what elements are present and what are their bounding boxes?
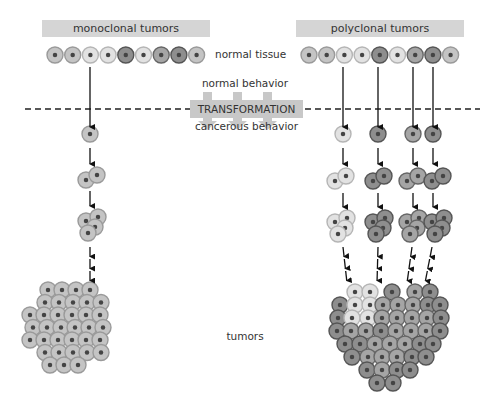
nucleus-icon <box>42 338 46 342</box>
nucleus-icon <box>418 342 422 346</box>
nucleus-icon <box>413 290 417 294</box>
dividing-cell <box>376 168 392 184</box>
nucleus-icon <box>335 329 339 333</box>
nucleus-icon <box>84 338 88 342</box>
nucleus-icon <box>382 174 386 178</box>
normal-tissue-cell <box>171 47 187 63</box>
nucleus-icon <box>395 316 399 320</box>
nucleus-icon <box>395 368 399 372</box>
nucleus-icon <box>71 350 75 354</box>
nucleus-icon <box>341 132 345 136</box>
normal-tissue-cell <box>301 47 317 63</box>
nucleus-icon <box>411 303 415 307</box>
nucleus-icon <box>381 303 385 307</box>
nucleus-icon <box>336 232 340 236</box>
nucleus-icon <box>360 53 364 57</box>
nucleus-icon <box>43 300 47 304</box>
nucleus-icon <box>438 329 442 333</box>
normal-tissue-cell <box>336 47 352 63</box>
dividing-cell <box>338 168 354 184</box>
dividing-cell <box>435 168 451 184</box>
transformed-cell <box>370 126 386 142</box>
dividing-cell <box>89 167 105 183</box>
polyclonal-header: polyclonal tumors <box>296 20 464 37</box>
nucleus-icon <box>413 53 417 57</box>
dividing-cell <box>368 226 384 242</box>
nucleus-icon <box>124 53 128 57</box>
nucleus-icon <box>431 132 435 136</box>
normal-tissue-cell <box>118 47 134 63</box>
nucleus-icon <box>333 179 337 183</box>
nucleus-icon <box>373 342 377 346</box>
nucleus-icon <box>408 368 412 372</box>
nucleus-icon <box>84 178 88 182</box>
tumor-cell <box>369 375 385 391</box>
nucleus-icon <box>408 232 412 236</box>
nucleus-icon <box>430 179 434 183</box>
normal-tissue-cell <box>390 47 406 63</box>
nucleus-icon <box>391 381 395 385</box>
nucleus-icon <box>70 53 74 57</box>
nucleus-icon <box>60 288 64 292</box>
nucleus-icon <box>45 325 49 329</box>
nucleus-icon <box>353 303 357 307</box>
normal-tissue-cell <box>354 47 370 63</box>
nucleus-icon <box>379 329 383 333</box>
tumor-cell <box>385 375 401 391</box>
dashed-arrow-icon <box>409 259 410 269</box>
nucleus-icon <box>431 342 435 346</box>
nucleus-icon <box>378 53 382 57</box>
nucleus-icon <box>85 300 89 304</box>
nucleus-icon <box>428 290 432 294</box>
nucleus-icon <box>388 342 392 346</box>
tumor-cell <box>344 349 360 365</box>
nucleus-icon <box>43 350 47 354</box>
nucleus-icon <box>438 303 442 307</box>
nucleus-icon <box>380 368 384 372</box>
dividing-cell <box>80 225 96 241</box>
nucleus-icon <box>342 53 346 57</box>
normal-behavior-label: normal behavior <box>195 77 295 89</box>
normal-tissue-cell <box>82 47 98 63</box>
transformation-label: TRANSFORMATION <box>190 100 303 118</box>
nucleus-icon <box>86 231 90 235</box>
nucleus-icon <box>87 325 91 329</box>
nucleus-icon <box>353 290 357 294</box>
nucleus-icon <box>371 179 375 183</box>
tumor-clonality-diagram <box>0 0 492 410</box>
nucleus-icon <box>439 316 443 320</box>
diagram-canvas: monoclonal tumors polyclonal tumors norm… <box>0 0 492 410</box>
dividing-cell <box>402 226 418 242</box>
nucleus-icon <box>177 53 181 57</box>
nucleus-icon <box>368 303 372 307</box>
normal-tissue-cell <box>425 47 441 63</box>
monoclonal-header: monoclonal tumors <box>42 20 210 37</box>
nucleus-icon <box>85 350 89 354</box>
nucleus-icon <box>410 316 414 320</box>
tumor-cell <box>402 362 418 378</box>
nucleus-icon <box>424 329 428 333</box>
dashed-arrow-icon <box>428 259 430 269</box>
nucleus-icon <box>59 325 63 329</box>
normal-tissue-cell <box>65 47 81 63</box>
nucleus-icon <box>53 53 57 57</box>
nucleus-icon <box>159 53 163 57</box>
nucleus-icon <box>376 132 380 136</box>
nucleus-icon <box>84 313 88 317</box>
nucleus-icon <box>416 174 420 178</box>
normal-tissue-cell <box>136 47 152 63</box>
nucleus-icon <box>31 325 35 329</box>
nucleus-icon <box>380 355 384 359</box>
dashed-arrow-icon <box>346 271 347 281</box>
nucleus-icon <box>403 342 407 346</box>
nucleus-icon <box>141 53 145 57</box>
dashed-arrow-icon <box>343 247 344 257</box>
nucleus-icon <box>88 288 92 292</box>
normal-tissue-label: normal tissue <box>215 48 275 60</box>
nucleus-icon <box>425 316 429 320</box>
tumor-cell <box>418 349 434 365</box>
nucleus-icon <box>57 300 61 304</box>
nucleus-icon <box>358 342 362 346</box>
transformed-cell <box>335 126 351 142</box>
dashed-arrow-icon <box>407 271 408 281</box>
